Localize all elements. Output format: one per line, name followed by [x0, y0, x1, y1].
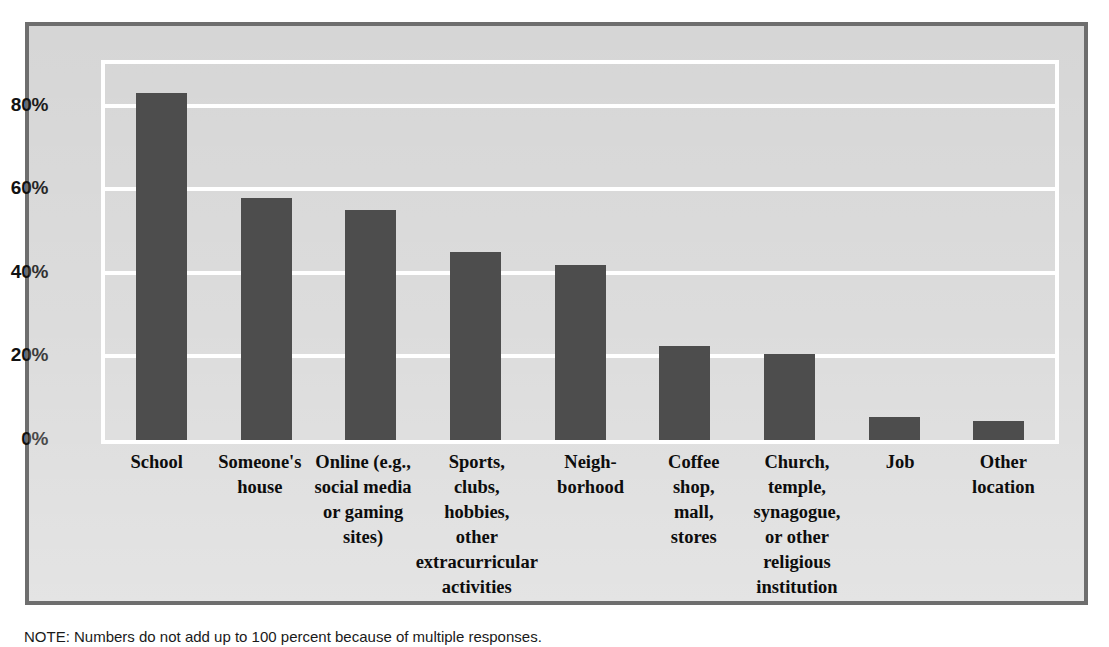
figure-note: NOTE: Numbers do not add up to 100 perce… [24, 627, 1064, 647]
bar-slot [528, 68, 633, 440]
bar [450, 252, 501, 440]
bar [555, 265, 606, 440]
bar-series [109, 68, 1051, 440]
chart-figure-frame: 0%20%40%60%80% SchoolSomeone's houseOnli… [25, 22, 1088, 605]
x-axis-category-label: Coffee shop, mall, stores [642, 450, 745, 550]
plot-area [101, 60, 1059, 444]
bar-slot [109, 68, 214, 440]
bar-slot [423, 68, 528, 440]
bar-slot [946, 68, 1051, 440]
bar [973, 421, 1024, 440]
bar [136, 93, 187, 440]
bar [241, 198, 292, 440]
bar-slot [214, 68, 319, 440]
y-axis-tick-label: 60% [0, 177, 48, 199]
bar-slot [842, 68, 947, 440]
axis-baseline [101, 440, 1059, 444]
y-axis-tick-label: 40% [0, 261, 48, 283]
bar [869, 417, 920, 440]
bar-slot [632, 68, 737, 440]
y-axis-tick-label: 0% [0, 428, 48, 450]
bar [345, 210, 396, 440]
bar-slot [318, 68, 423, 440]
bar-slot [737, 68, 842, 440]
y-axis-tick-label: 20% [0, 344, 48, 366]
x-axis-category-label: Neigh- borhood [539, 450, 642, 500]
x-axis-category-label: Sports, clubs, hobbies, other extracurri… [415, 450, 539, 600]
plot-inner [105, 64, 1055, 444]
x-axis-category-label: School [105, 450, 208, 475]
bar [764, 354, 815, 440]
x-axis-category-label: Job [849, 450, 952, 475]
x-axis-category-labels: SchoolSomeone's houseOnline (e.g., socia… [105, 450, 1055, 600]
y-axis-tick-label: 80% [0, 94, 48, 116]
x-axis-category-label: Other location [952, 450, 1055, 500]
x-axis-category-label: Someone's house [208, 450, 311, 500]
bar [659, 346, 710, 440]
x-axis-category-label: Church, temple, synagogue, or other reli… [745, 450, 848, 600]
x-axis-category-label: Online (e.g., social media or gaming sit… [311, 450, 414, 550]
